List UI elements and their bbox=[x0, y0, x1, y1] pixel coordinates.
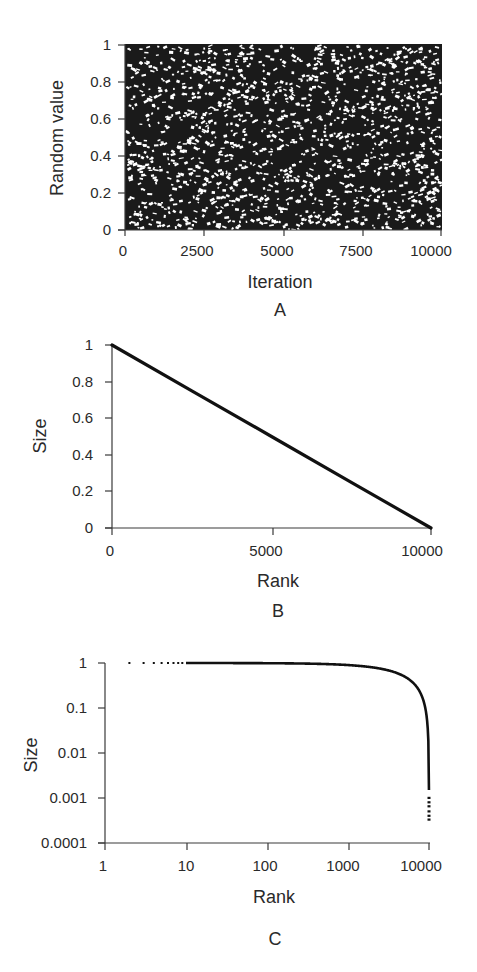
x-axis-title: Rank bbox=[257, 571, 300, 591]
panel-c: 0.0001 0.001 0.01 0.1 1 1 10 100 1000 10… bbox=[21, 654, 442, 949]
x-ticks bbox=[105, 843, 429, 850]
y-tick-label: 0.8 bbox=[90, 73, 111, 90]
x-tick-labels: 1 10 100 1000 10000 bbox=[99, 857, 442, 874]
x-tick-labels: 0 2500 5000 7500 10000 bbox=[119, 242, 452, 259]
y-tick-label: 1 bbox=[79, 654, 87, 671]
panel-label: B bbox=[272, 601, 284, 621]
x-tick-label: 5000 bbox=[260, 242, 293, 259]
x-axis-title: Iteration bbox=[247, 272, 312, 292]
y-ticks bbox=[118, 45, 125, 230]
y-tick-label: 0 bbox=[103, 221, 111, 238]
panel-label: C bbox=[269, 929, 282, 949]
y-tick-label: 0.8 bbox=[72, 373, 93, 390]
y-tick-label: 0.001 bbox=[49, 789, 87, 806]
y-tick-labels: 0 0.2 0.4 0.6 0.8 1 bbox=[90, 36, 111, 238]
x-ticks bbox=[112, 528, 431, 535]
panel-label: A bbox=[274, 300, 286, 320]
x-tick-label: 0 bbox=[106, 542, 114, 559]
panel-a: 0 0.2 0.4 0.6 0.8 1 0 2500 5000 7500 100… bbox=[47, 36, 452, 320]
x-tick-label: 0 bbox=[119, 242, 127, 259]
x-tick-label: 1 bbox=[99, 857, 107, 874]
y-tick-label: 0.0001 bbox=[41, 834, 87, 851]
y-axis-title: Size bbox=[30, 418, 50, 453]
y-tick-label: 0.4 bbox=[90, 147, 111, 164]
y-tick-label: 0.6 bbox=[90, 110, 111, 127]
x-tick-labels: 0 5000 10000 bbox=[106, 542, 443, 559]
x-tick-label: 10000 bbox=[401, 542, 443, 559]
x-tick-label: 10 bbox=[178, 857, 195, 874]
y-tick-label: 0.2 bbox=[72, 482, 93, 499]
x-tick-label: 1000 bbox=[326, 857, 359, 874]
x-tick-label: 2500 bbox=[180, 242, 213, 259]
x-tick-label: 10000 bbox=[410, 242, 452, 259]
y-tick-labels: 0 0.2 0.4 0.6 0.8 1 bbox=[72, 336, 93, 536]
y-tick-label: 1 bbox=[85, 336, 93, 353]
x-axis-title: Rank bbox=[253, 887, 296, 907]
size-rank-loglog-curve bbox=[128, 662, 430, 821]
size-rank-line bbox=[112, 345, 431, 528]
y-tick-label: 0.01 bbox=[58, 744, 87, 761]
y-tick-label: 0.4 bbox=[72, 446, 93, 463]
y-ticks bbox=[98, 663, 105, 843]
y-tick-labels: 0.0001 0.001 0.01 0.1 1 bbox=[41, 654, 87, 851]
y-tick-label: 0.6 bbox=[72, 409, 93, 426]
x-tick-label: 7500 bbox=[339, 242, 372, 259]
y-tick-label: 0.1 bbox=[66, 699, 87, 716]
y-axis-title: Size bbox=[21, 737, 41, 772]
x-tick-label: 100 bbox=[252, 857, 277, 874]
y-ticks bbox=[105, 345, 112, 528]
y-axis-title: Random value bbox=[47, 80, 67, 196]
x-ticks bbox=[125, 230, 441, 236]
x-tick-label: 5000 bbox=[249, 542, 282, 559]
figure: 0 0.2 0.4 0.6 0.8 1 0 2500 5000 7500 100… bbox=[0, 0, 477, 972]
y-tick-label: 1 bbox=[103, 36, 111, 53]
panel-b: 0 0.2 0.4 0.6 0.8 1 0 5000 10000 Rank Si… bbox=[30, 336, 443, 621]
y-tick-label: 0 bbox=[85, 519, 93, 536]
y-tick-label: 0.2 bbox=[90, 184, 111, 201]
x-tick-label: 10000 bbox=[400, 857, 442, 874]
